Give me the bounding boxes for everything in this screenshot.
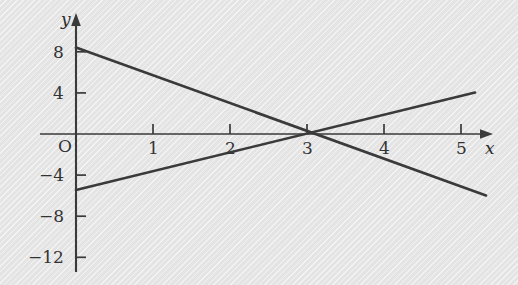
series-group — [76, 48, 486, 196]
y-tick-label-neg8: −8 — [39, 208, 64, 225]
tick-marks-group — [76, 52, 461, 257]
series-increasing-line — [76, 93, 475, 191]
chart-figure: 8 4 −4 −8 −12 1 2 3 4 5 O y x — [0, 0, 518, 285]
x-tick-label-5: 5 — [456, 140, 467, 157]
origin-label: O — [58, 138, 72, 155]
chart-canvas — [0, 0, 518, 285]
y-tick-label-neg12: −12 — [28, 249, 64, 266]
y-tick-label-neg4: −4 — [39, 167, 64, 184]
x-tick-label-4: 4 — [379, 140, 390, 157]
series-decreasing-line — [76, 48, 486, 196]
x-tick-label-2: 2 — [225, 140, 236, 157]
x-tick-label-1: 1 — [148, 140, 159, 157]
x-tick-label-3: 3 — [302, 140, 313, 157]
y-axis-label: y — [61, 11, 71, 28]
y-axis-arrow-icon — [71, 13, 81, 26]
x-axis-label: x — [485, 140, 495, 157]
y-tick-label-8: 8 — [53, 44, 64, 61]
y-tick-label-4: 4 — [53, 85, 64, 102]
